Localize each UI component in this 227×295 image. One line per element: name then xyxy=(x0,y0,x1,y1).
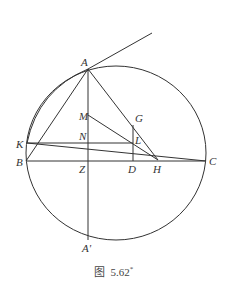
tangent-at-a xyxy=(88,33,152,69)
label-k: K xyxy=(16,139,23,150)
caption-prefix: 图 xyxy=(94,266,105,278)
label-m: M xyxy=(79,111,88,122)
label-a: A xyxy=(81,57,88,68)
figure-caption: 图 5.62* xyxy=(0,263,227,279)
label-h: H xyxy=(153,164,161,175)
label-n: N xyxy=(79,131,86,142)
label-z: Z xyxy=(79,164,85,175)
caption-mark: * xyxy=(130,265,134,273)
geometry-figure xyxy=(0,0,227,295)
segment-k-c xyxy=(27,143,206,161)
label-a-prime: A' xyxy=(82,243,91,254)
label-c: C xyxy=(209,156,216,167)
label-l: L xyxy=(135,135,141,146)
segment-m-h xyxy=(88,115,158,160)
label-d: D xyxy=(128,164,136,175)
label-b: B xyxy=(16,157,23,168)
segment-a-h xyxy=(88,69,158,160)
label-g: G xyxy=(135,113,143,124)
caption-number: 5.62 xyxy=(110,266,129,278)
